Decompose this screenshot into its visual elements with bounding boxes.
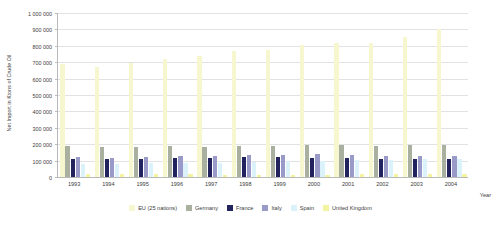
- y-tick-label: 0: [4, 175, 52, 181]
- bar: [237, 146, 241, 177]
- y-tick-label: 400 000: [4, 109, 52, 115]
- bar: [325, 175, 329, 177]
- bar: [252, 162, 256, 177]
- bar: [394, 174, 398, 177]
- y-tick-label: 700 000: [4, 60, 52, 66]
- bar: [163, 59, 167, 177]
- legend-swatch: [129, 205, 135, 211]
- bar-group: [229, 14, 263, 177]
- x-tick-label: 1997: [194, 181, 228, 187]
- bar: [403, 37, 407, 177]
- bar: [271, 146, 275, 177]
- bar-group: [264, 14, 298, 177]
- bar: [173, 158, 177, 177]
- x-tick-label: 2000: [297, 181, 331, 187]
- x-tick-label: 1998: [228, 181, 262, 187]
- bar: [305, 145, 309, 177]
- x-tick-label: 2004: [434, 181, 468, 187]
- bar: [110, 158, 114, 177]
- bar: [286, 161, 290, 177]
- bar: [154, 174, 158, 177]
- legend-swatch: [291, 205, 297, 211]
- bar-group: [58, 14, 92, 177]
- bar-group: [298, 14, 332, 177]
- bar: [144, 157, 148, 177]
- legend-swatch: [227, 205, 233, 211]
- bar: [452, 156, 456, 177]
- legend-label: Spain: [300, 205, 314, 211]
- bar-series-container: [58, 14, 468, 177]
- bar: [183, 163, 187, 177]
- bar: [428, 174, 432, 177]
- bar: [334, 43, 338, 177]
- bar-group: [161, 14, 195, 177]
- bar: [276, 157, 280, 177]
- bar: [442, 145, 446, 177]
- bar: [418, 156, 422, 177]
- bar: [457, 159, 461, 177]
- legend-item[interactable]: Italy: [262, 205, 281, 211]
- bar: [384, 156, 388, 177]
- bar: [437, 29, 441, 177]
- legend-label: United Kingdom: [332, 205, 372, 211]
- bar: [266, 50, 270, 177]
- bar: [291, 175, 295, 177]
- x-axis-title: Year: [480, 192, 491, 198]
- x-tick-label: 1996: [160, 181, 194, 187]
- legend-label: France: [236, 205, 253, 211]
- legend-item[interactable]: EU (25 nations): [129, 205, 177, 211]
- bar: [360, 174, 364, 177]
- x-tick-label: 2003: [400, 181, 434, 187]
- bar: [76, 157, 80, 177]
- x-tick-label: 1995: [126, 181, 160, 187]
- bar: [129, 63, 133, 177]
- bar: [242, 157, 246, 177]
- x-tick-label: 1993: [57, 181, 91, 187]
- legend-label: Germany: [195, 205, 218, 211]
- chart-legend: EU (25 nations)GermanyFranceItalySpainUn…: [0, 205, 501, 211]
- bar: [423, 159, 427, 177]
- bar: [120, 174, 124, 177]
- bar: [105, 159, 109, 177]
- bar-group: [366, 14, 400, 177]
- legend-label: EU (25 nations): [138, 205, 177, 211]
- bar: [247, 155, 251, 177]
- bar-group: [127, 14, 161, 177]
- bar: [213, 156, 217, 177]
- bar: [355, 160, 359, 177]
- legend-swatch: [186, 205, 192, 211]
- bar: [350, 155, 354, 177]
- bar: [139, 159, 143, 177]
- legend-swatch: [323, 205, 329, 211]
- y-tick-label: 600 000: [4, 77, 52, 83]
- y-tick-label: 500 000: [4, 93, 52, 99]
- legend-item[interactable]: Spain: [291, 205, 314, 211]
- bar: [197, 56, 201, 177]
- bar: [60, 64, 64, 177]
- legend-item[interactable]: United Kingdom: [323, 205, 372, 211]
- plot-area: [57, 14, 468, 178]
- bar: [71, 159, 75, 177]
- legend-item[interactable]: France: [227, 205, 253, 211]
- bar: [65, 146, 69, 177]
- y-tick-label: 200 000: [4, 142, 52, 148]
- bar: [134, 147, 138, 177]
- bar-group: [435, 14, 469, 177]
- bar: [115, 164, 119, 177]
- bar: [379, 159, 383, 177]
- bar: [202, 147, 206, 177]
- bar: [81, 164, 85, 177]
- bar: [100, 147, 104, 177]
- bar-group: [332, 14, 366, 177]
- bar-group: [92, 14, 126, 177]
- bar: [408, 145, 412, 177]
- bar: [95, 67, 99, 177]
- bar: [218, 163, 222, 177]
- bar: [232, 51, 236, 177]
- bar: [257, 175, 261, 177]
- bar: [86, 174, 90, 177]
- bar: [188, 174, 192, 177]
- bar: [462, 174, 466, 177]
- legend-item[interactable]: Germany: [186, 205, 218, 211]
- x-tick-label: 1994: [91, 181, 125, 187]
